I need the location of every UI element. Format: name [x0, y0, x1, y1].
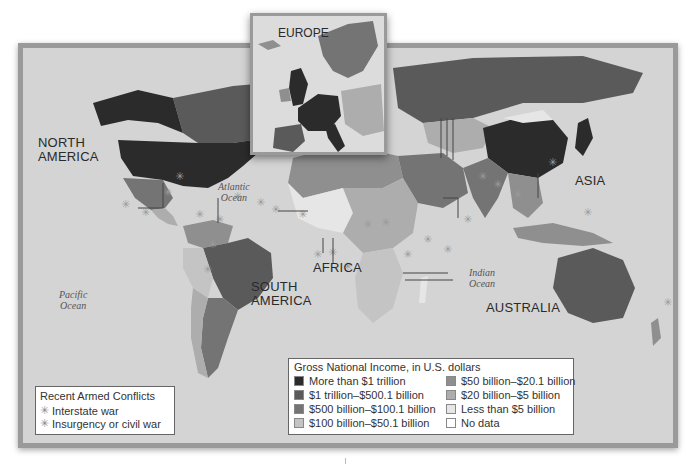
legend-item: No data [446, 416, 576, 430]
divider [345, 458, 346, 464]
svg-text:✳: ✳ [175, 170, 184, 183]
country-spain [273, 124, 305, 152]
svg-text:✳: ✳ [513, 188, 522, 201]
legend-item-insurgency: ✳ Insurgency or civil war [40, 417, 170, 430]
country-ireland [279, 88, 291, 102]
svg-text:✳: ✳ [363, 218, 372, 231]
svg-text:✳: ✳ [423, 233, 432, 246]
label-south-america: SOUTHAMERICA [251, 280, 312, 308]
gni-legend: Gross National Income, in U.S. dollars M… [288, 358, 574, 435]
legend-item: $100 billion–$50.1 billion [294, 416, 446, 430]
svg-text:✳: ✳ [203, 263, 212, 276]
south-africa [355, 248, 403, 323]
country-japan [575, 118, 593, 156]
eastern-europe [341, 84, 384, 136]
svg-text:✳: ✳ [548, 156, 557, 169]
swatch-icon [294, 404, 304, 414]
armed-conflicts-legend: Recent Armed Conflicts ✳ Interstate war … [35, 386, 175, 435]
label-africa: AFRICA [313, 261, 362, 275]
country-argentina [201, 298, 238, 378]
country-uk [289, 68, 308, 106]
inset-title: EUROPE [278, 26, 329, 40]
svg-text:✳: ✳ [298, 208, 307, 221]
label-australia: AUSTRALIA [486, 301, 560, 315]
star-burst-icon: ✳ [40, 417, 49, 430]
swatch-icon [294, 390, 304, 400]
label-north-america: NORTHAMERICA [38, 136, 99, 164]
legend-item-interstate-war: ✳ Interstate war [40, 404, 170, 417]
star-burst-icon: ✳ [40, 404, 49, 417]
legend-item: Less than $5 billion [446, 402, 576, 416]
label-pacific-ocean: PacificOcean [59, 289, 87, 311]
svg-text:✳: ✳ [163, 186, 172, 199]
svg-text:✳: ✳ [195, 208, 204, 221]
legend-item: $1 trillion–$500.1 billion [294, 388, 446, 402]
country-alaska [93, 90, 183, 133]
svg-text:✳: ✳ [121, 198, 130, 211]
conflicts-legend-title: Recent Armed Conflicts [40, 390, 170, 402]
country-russia [393, 56, 643, 123]
country-australia [553, 248, 635, 323]
country-iceland [258, 40, 281, 50]
svg-text:✳: ✳ [478, 170, 487, 183]
country-italy [325, 124, 345, 152]
central-asia [423, 118, 493, 153]
indonesia [513, 223, 613, 246]
swatch-icon [294, 418, 304, 428]
country-new-zealand [651, 318, 661, 346]
label-asia: ASIA [575, 174, 605, 188]
svg-text:✳: ✳ [208, 238, 217, 251]
svg-text:✳: ✳ [663, 296, 672, 309]
svg-text:✳: ✳ [271, 203, 280, 216]
svg-text:✳: ✳ [215, 213, 224, 226]
swatch-icon [446, 404, 456, 414]
swatch-icon [446, 418, 456, 428]
svg-text:✳: ✳ [443, 243, 452, 256]
legend-item: $500 billion–$100.1 billion [294, 402, 446, 416]
label-atlantic-ocean: AtlanticOcean [218, 181, 250, 203]
swatch-icon [446, 390, 456, 400]
label-indian-ocean: IndianOcean [469, 267, 495, 289]
legend-item: More than $1 trillion [294, 374, 446, 388]
swatch-icon [446, 376, 456, 386]
europe-inset: EUROPE [250, 13, 387, 155]
svg-text:✳: ✳ [583, 206, 592, 219]
svg-text:✳: ✳ [463, 213, 472, 226]
svg-text:✳: ✳ [256, 196, 265, 209]
gni-legend-title: Gross National Income, in U.S. dollars [294, 361, 568, 373]
swatch-icon [294, 376, 304, 386]
legend-item: $50 billion–$20.1 billion [446, 374, 576, 388]
svg-text:✳: ✳ [493, 178, 502, 191]
legend-item: $20 billion–$5 billion [446, 388, 576, 402]
svg-text:✳: ✳ [381, 216, 390, 229]
svg-text:✳: ✳ [403, 248, 412, 261]
central-america [151, 208, 178, 226]
